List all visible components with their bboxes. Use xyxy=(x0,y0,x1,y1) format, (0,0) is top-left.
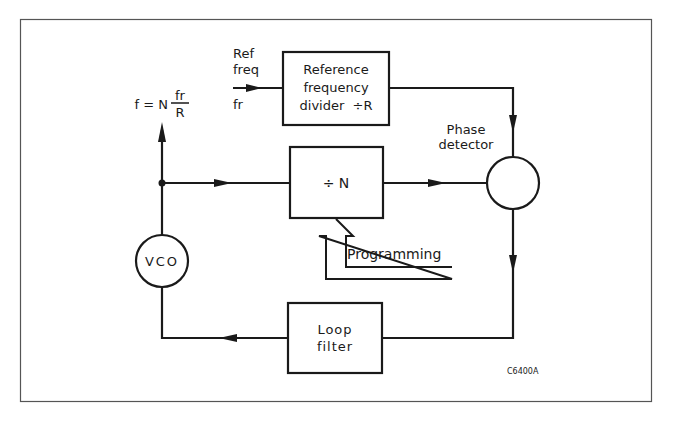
ref-divider-line1: Reference xyxy=(303,62,368,77)
phase-detector: Phase detector xyxy=(439,122,539,209)
programming-input: Programming xyxy=(319,219,452,279)
formula-denominator: R xyxy=(175,105,184,120)
phase-detector-circle xyxy=(487,157,539,209)
vco: VCO xyxy=(136,235,188,287)
ref-freq-label-line2: freq xyxy=(233,62,259,77)
phase-to-filter-arrow-icon xyxy=(509,255,517,273)
phase-to-filter-line xyxy=(382,209,513,338)
ref-to-phase-arrow-icon xyxy=(509,115,517,133)
output-arrow-icon xyxy=(158,122,166,142)
figure-code: C6400A xyxy=(507,367,539,376)
loop-filter-line1: Loop xyxy=(317,322,352,337)
ref-input-arrow-icon xyxy=(246,84,262,92)
programming-label: Programming xyxy=(347,246,441,262)
phase-detector-line2: detector xyxy=(439,137,495,152)
n-to-phase-arrow-icon xyxy=(428,179,446,187)
loop-filter-block: Loop filter xyxy=(288,303,382,373)
formula-numerator: fr xyxy=(175,88,186,103)
vco-label: VCO xyxy=(145,254,179,269)
loop-filter-line2: filter xyxy=(317,339,353,354)
ref-divider-line2: frequency xyxy=(303,80,369,95)
phase-detector-line1: Phase xyxy=(447,122,486,137)
ref-divider-line3: divider ÷R xyxy=(300,98,373,113)
filter-to-vco-arrow-icon xyxy=(219,334,237,342)
output-formula: f = N fr R xyxy=(135,88,189,120)
node-to-n-arrow-icon xyxy=(214,179,232,187)
ref-freq-symbol: fr xyxy=(233,97,244,112)
filter-to-vco-line xyxy=(162,287,288,338)
pll-block-diagram: Reference frequency divider ÷R Ref freq … xyxy=(0,0,673,426)
ref-freq-label-line1: Ref xyxy=(233,46,254,61)
ref-freq-input: Ref freq fr xyxy=(233,46,283,112)
n-divider-block: ÷ N xyxy=(290,147,383,218)
n-divider-label: ÷ N xyxy=(323,175,350,191)
ref-divider-block: Reference frequency divider ÷R xyxy=(283,52,389,125)
formula-lhs: f = N xyxy=(135,97,168,112)
